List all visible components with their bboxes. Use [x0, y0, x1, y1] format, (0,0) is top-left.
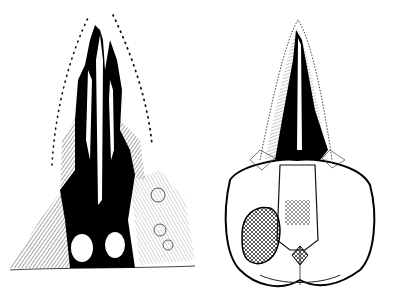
skull-illustration-right: [200, 0, 394, 303]
skull-left-drawing: [0, 0, 200, 303]
skull-right-drawing: [200, 0, 394, 303]
skull-illustration-left: [0, 0, 200, 303]
